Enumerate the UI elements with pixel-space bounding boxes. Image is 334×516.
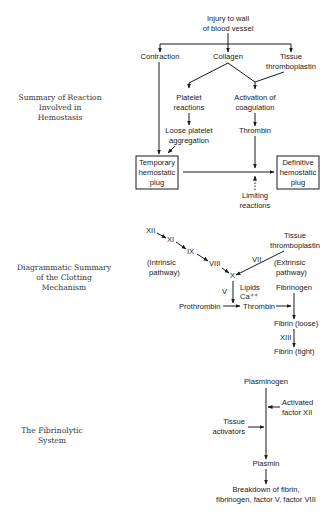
node-plasminogen: Plasminogen [244, 377, 288, 386]
section-clotting-mechanism: Diagrammatic Summary of the Clotting Mec… [17, 226, 320, 356]
svg-text:thromboplastin: thromboplastin [270, 241, 320, 250]
node-tissue-activators: Tissue [223, 417, 245, 426]
factor-viii: VIII [209, 259, 220, 268]
svg-text:Mechanism: Mechanism [42, 283, 86, 292]
label-xiii: XIII [280, 333, 291, 342]
box-temporary-plug: Temporary hemostatic plug [136, 156, 178, 189]
node-breakdown: Breakdown of fibrin, [232, 485, 299, 494]
factor-xii: XII [146, 226, 155, 235]
node-tissue-thromboplastin-2: Tissue [284, 231, 306, 240]
node-injury: Injury to wall [207, 14, 250, 23]
svg-text:aggregation: aggregation [169, 136, 209, 145]
svg-text:activators: activators [213, 427, 246, 436]
caption-clotting: Diagrammatic Summary of the Clotting Mec… [17, 263, 112, 292]
node-thrombin-2: Thrombin [243, 302, 275, 311]
svg-text:Definitive: Definitive [282, 158, 313, 167]
factor-ix: IX [187, 247, 194, 256]
label-lipids: Lipids [240, 283, 260, 292]
node-plasmin: Plasmin [252, 459, 279, 468]
node-collagen: Collagen [213, 52, 243, 61]
node-tissue-thromboplastin: Tissue [280, 52, 302, 61]
svg-text:The Fibrinolytic: The Fibrinolytic [21, 426, 82, 435]
svg-text:reactions: reactions [240, 201, 271, 210]
svg-text:coagulation: coagulation [236, 103, 275, 112]
factor-x: X [230, 271, 235, 280]
caption-hemostasis: Summary of Reaction Involved in Hemostas… [18, 93, 101, 122]
svg-text:hemostatic: hemostatic [280, 168, 317, 177]
svg-text:reactions: reactions [174, 103, 205, 112]
node-fibrinogen: Fibrinogen [276, 283, 312, 292]
node-activation-coagulation: Activation of [234, 93, 276, 102]
svg-text:fibrinogen, factor V, factor V: fibrinogen, factor V, factor VIII [216, 495, 316, 504]
node-platelet-reactions: Platelet [176, 93, 202, 102]
svg-text:of the Clotting: of the Clotting [36, 273, 92, 282]
node-fibrin-tight: Fibrin (tight) [274, 347, 315, 356]
svg-text:thromboplastin: thromboplastin [266, 62, 316, 71]
node-contraction: Contraction [141, 52, 180, 61]
svg-text:Temporary: Temporary [139, 158, 175, 167]
node-prothrombin: Prothrombin [179, 302, 220, 311]
factor-v: V [222, 287, 228, 296]
svg-text:hemostatic: hemostatic [139, 168, 176, 177]
node-loose-aggregation: Loose platelet [165, 126, 213, 135]
node-activated-factor-xii: Activated [282, 398, 313, 407]
svg-text:Summary of Reaction: Summary of Reaction [18, 93, 101, 102]
svg-text:pathway): pathway) [149, 268, 180, 277]
svg-text:Diagrammatic Summary: Diagrammatic Summary [17, 263, 112, 272]
caption-fibrinolytic: The Fibrinolytic System [21, 426, 82, 445]
node-injury-line2: of blood vessel [203, 24, 254, 33]
svg-text:Hemostasis: Hemostasis [38, 113, 83, 122]
box-definitive-plug: Definitive hemostatic plug [277, 156, 319, 189]
svg-text:plug: plug [150, 178, 164, 187]
node-thrombin: Thrombin [239, 126, 271, 135]
label-intrinsic: (Intrinsic [147, 258, 176, 267]
svg-text:pathway): pathway) [276, 268, 307, 277]
node-limiting-reactions: Limiting [242, 191, 268, 200]
hemostasis-diagram-page: Summary of Reaction Involved in Hemostas… [0, 0, 334, 516]
section-hemostasis: Summary of Reaction Involved in Hemostas… [18, 14, 319, 210]
svg-text:factor XII: factor XII [282, 408, 312, 417]
label-extrinsic: (Extrinsic [274, 258, 305, 267]
connectors-fibrinolytic [248, 388, 280, 484]
factor-xi: XI [167, 235, 174, 244]
label-calcium: Ca⁺⁺ [240, 292, 258, 301]
node-fibrin-loose: Fibrin (loose) [274, 319, 319, 328]
svg-text:plug: plug [291, 178, 305, 187]
svg-text:System: System [38, 436, 66, 445]
svg-text:Involved in: Involved in [39, 103, 82, 112]
section-fibrinolytic-system: The Fibrinolytic System Plasminogen Plas… [21, 377, 316, 504]
